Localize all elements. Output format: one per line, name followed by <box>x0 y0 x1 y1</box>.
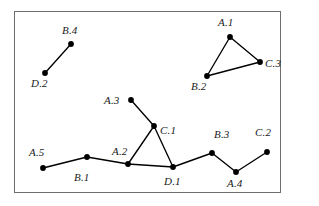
node-label-d-2: D.2 <box>31 78 48 89</box>
nodes-group <box>40 34 270 175</box>
graph-canvas <box>0 0 319 206</box>
graph-node-c-2[interactable] <box>264 149 270 155</box>
graph-edge <box>45 44 71 73</box>
graph-node-a-5[interactable] <box>40 165 46 171</box>
node-label-d-1: D.1 <box>164 176 181 187</box>
graph-edge <box>236 152 267 172</box>
graph-edge <box>230 37 260 62</box>
node-label-a-4: A.4 <box>227 178 243 189</box>
graph-edge <box>212 153 236 172</box>
graph-node-d-1[interactable] <box>170 164 176 170</box>
graph-edge <box>207 62 260 76</box>
graph-node-a-2[interactable] <box>125 161 131 167</box>
graph-edge <box>128 126 154 164</box>
node-label-b-1: B.1 <box>74 172 90 183</box>
graph-edge <box>87 157 128 164</box>
graph-edge <box>128 164 173 167</box>
graph-node-b-1[interactable] <box>84 154 90 160</box>
node-label-a-2: A.2 <box>112 146 128 157</box>
node-label-a-1: A.1 <box>218 17 234 28</box>
node-label-c-2: C.2 <box>255 127 271 138</box>
node-label-b-2: B.2 <box>191 81 207 92</box>
node-label-a-5: A.5 <box>29 147 45 158</box>
graph-node-c-3[interactable] <box>257 59 263 65</box>
graph-figure: B.4D.2A.1C.3B.2A.3C.1A.2D.1A.5B.1B.3A.4C… <box>0 0 319 206</box>
node-label-b-4: B.4 <box>62 25 78 36</box>
graph-node-b-2[interactable] <box>204 73 210 79</box>
graph-node-b-3[interactable] <box>209 150 215 156</box>
graph-edge <box>131 100 154 126</box>
edges-group <box>43 37 267 172</box>
graph-edge <box>43 157 87 168</box>
node-label-a-3: A.3 <box>104 95 120 106</box>
graph-node-a-1[interactable] <box>227 34 233 40</box>
node-label-b-3: B.3 <box>214 129 230 140</box>
graph-node-a-4[interactable] <box>233 169 239 175</box>
graph-edge <box>173 153 212 167</box>
graph-node-c-1[interactable] <box>151 123 157 129</box>
graph-node-b-4[interactable] <box>68 41 74 47</box>
node-label-c-1: C.1 <box>160 125 176 136</box>
graph-node-a-3[interactable] <box>128 97 134 103</box>
graph-node-d-2[interactable] <box>42 70 48 76</box>
node-label-c-3: C.3 <box>265 58 281 69</box>
